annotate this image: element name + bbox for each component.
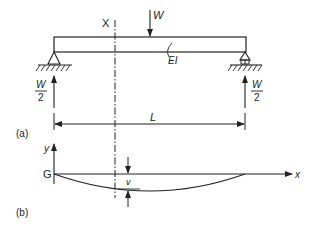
stiffness-label: EI bbox=[168, 55, 178, 66]
reaction-left-numerator: W bbox=[36, 79, 47, 90]
span-label: L bbox=[150, 111, 156, 123]
deflection-curve bbox=[54, 174, 245, 191]
part-b-label: (b) bbox=[16, 207, 28, 218]
reaction-right-denominator: 2 bbox=[254, 92, 260, 103]
simply-supported-beam bbox=[54, 37, 246, 52]
origin-label: G bbox=[43, 168, 52, 180]
deflection-label: v bbox=[126, 177, 131, 187]
roller-support-right bbox=[228, 52, 262, 71]
part-a-label: (a) bbox=[16, 128, 28, 139]
x-axis-label: x bbox=[294, 169, 301, 180]
reaction-left-denominator: 2 bbox=[38, 92, 44, 103]
load-label: W bbox=[153, 9, 165, 21]
pin-support-left bbox=[36, 52, 72, 71]
section-label: X bbox=[102, 17, 110, 29]
beam-diagram: X W EI W 2 W 2 L (a) y G x v (b) bbox=[0, 0, 316, 233]
y-axis-label: y bbox=[43, 143, 50, 154]
beam bbox=[54, 37, 246, 52]
reaction-right-numerator: W bbox=[252, 79, 263, 90]
